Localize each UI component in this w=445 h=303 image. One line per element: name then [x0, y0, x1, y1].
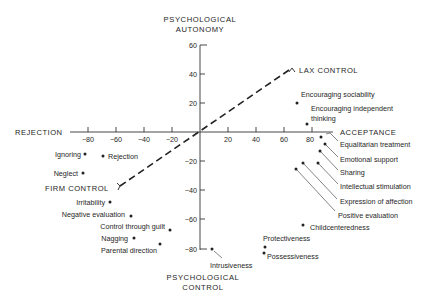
- svg-text:Positive evaluation: Positive evaluation: [338, 211, 398, 220]
- data-point: [296, 102, 299, 105]
- data-point: [211, 248, 214, 251]
- svg-text:Negative evaluation: Negative evaluation: [62, 210, 125, 219]
- circumplex-diagram: PSYCHOLOGICAL AUTONOMY 60 40 20 −20 −40 …: [0, 0, 445, 303]
- svg-text:Possessiveness: Possessiveness: [267, 252, 319, 261]
- svg-text:Encouraging independent: Encouraging independent: [311, 104, 393, 113]
- leader-line: [326, 145, 338, 157]
- svg-text:Expression of affection: Expression of affection: [340, 197, 413, 206]
- svg-text:Emotional support: Emotional support: [340, 155, 398, 164]
- diagram-canvas: PSYCHOLOGICAL AUTONOMY 60 40 20 −20 −40 …: [0, 0, 445, 303]
- y-tick-label: −20: [185, 157, 197, 166]
- svg-text:Rejection: Rejection: [108, 152, 138, 161]
- data-point: [109, 201, 112, 204]
- data-point: [159, 243, 162, 246]
- x-axis-negative-title: REJECTION: [15, 128, 63, 137]
- y-tick-label: 60: [189, 41, 197, 50]
- x-tick-label: 80: [306, 135, 314, 144]
- y-axis-ticks: [200, 45, 207, 249]
- svg-text:Nagging: Nagging: [101, 234, 128, 243]
- data-point: [130, 215, 133, 218]
- data-point: [263, 252, 266, 255]
- svg-text:Equalitarian treatment: Equalitarian treatment: [340, 140, 410, 149]
- svg-text:Neglect: Neglect: [54, 169, 78, 178]
- data-point: [133, 237, 136, 240]
- x-axis-positive-title: ACCEPTANCE: [340, 128, 396, 137]
- y-axis-positive-title-line1: PSYCHOLOGICAL: [164, 15, 237, 24]
- point-control-through-guilt: Control through guilt: [100, 222, 171, 232]
- point-ignoring: Ignoring: [55, 150, 86, 159]
- point-parental-direction: Parental direction: [101, 243, 161, 256]
- y-axis-negative-title-line1: PSYCHOLOGICAL: [167, 273, 240, 282]
- x-axis-tick-labels: −80 −60 −40 −20 20 40 60 80: [82, 135, 314, 144]
- point-intrusiveness: Intrusiveness: [210, 248, 253, 271]
- point-possessiveness: Possessiveness: [263, 252, 319, 262]
- y-axis-positive-title-line2: AUTONOMY: [176, 25, 225, 34]
- point-neglect: Neglect: [54, 169, 85, 178]
- point-childcenteredness: Childcenteredness: [302, 223, 370, 232]
- data-point: [264, 246, 267, 249]
- svg-text:Sharing: Sharing: [340, 168, 365, 177]
- x-tick-label: −80: [82, 135, 94, 144]
- control-dashed-axis: [120, 68, 292, 186]
- y-tick-label: 20: [189, 99, 197, 108]
- svg-text:Control through guilt: Control through guilt: [100, 222, 165, 231]
- data-point: [320, 136, 323, 139]
- data-point: [302, 224, 305, 227]
- svg-text:Ignoring: Ignoring: [55, 150, 81, 159]
- point-irritability: Irritability: [76, 198, 111, 207]
- y-axis-tick-labels: 60 40 20 −20 −40 −60 −80: [185, 41, 197, 254]
- svg-text:thinking: thinking: [311, 114, 336, 123]
- firm-control-arrowhead-icon: [117, 183, 120, 190]
- x-tick-label: 60: [280, 135, 288, 144]
- point-protectiveness: Protectiveness: [263, 234, 311, 249]
- svg-text:Irritability: Irritability: [76, 198, 105, 207]
- x-tick-label: −20: [166, 135, 178, 144]
- leader-line: [214, 251, 222, 258]
- svg-text:Intellectual stimulation: Intellectual stimulation: [340, 182, 411, 191]
- point-nagging: Nagging: [101, 234, 135, 243]
- leader-line: [304, 164, 337, 199]
- point-rejection: Rejection: [102, 152, 138, 161]
- y-tick-label: 40: [189, 70, 197, 79]
- point-encouraging-independent-thinking: Encouraging independent thinking: [306, 104, 393, 126]
- x-tick-label: 40: [252, 135, 260, 144]
- svg-text:Intrusiveness: Intrusiveness: [210, 261, 253, 270]
- svg-text:Parental direction: Parental direction: [101, 246, 157, 255]
- point-negative-evaluation: Negative evaluation: [62, 210, 133, 219]
- x-tick-label: −40: [138, 135, 150, 144]
- leader-line: [326, 133, 338, 141]
- firm-control-label: FIRM CONTROL: [45, 184, 109, 193]
- x-tick-label: 20: [224, 135, 232, 144]
- data-point: [102, 155, 105, 158]
- y-tick-label: −60: [185, 215, 197, 224]
- svg-text:Protectiveness: Protectiveness: [263, 234, 311, 243]
- svg-text:Encouraging sociability: Encouraging sociability: [301, 90, 375, 99]
- lax-control-label: LAX CONTROL: [299, 66, 358, 75]
- y-tick-label: −40: [185, 186, 197, 195]
- data-point: [84, 153, 87, 156]
- y-tick-label: −80: [185, 245, 197, 254]
- data-point: [82, 172, 85, 175]
- lax-control-arrowhead-icon: [289, 68, 295, 72]
- svg-text:Childcenteredness: Childcenteredness: [310, 223, 370, 232]
- data-point: [306, 123, 309, 126]
- point-encouraging-sociability: Encouraging sociability: [296, 90, 375, 105]
- y-axis-negative-title-line2: CONTROL: [182, 283, 223, 292]
- data-point: [169, 229, 172, 232]
- x-tick-label: −60: [110, 135, 122, 144]
